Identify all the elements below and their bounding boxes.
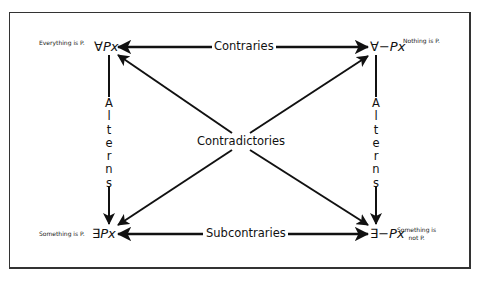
note-something-is-p: Something is P. <box>39 231 85 237</box>
contradictories-arrow-to-bottom-right <box>250 150 368 225</box>
formula-universal-affirmative: ∀Px <box>94 40 118 53</box>
contradictories-arrow-to-bottom-left <box>118 150 232 225</box>
label-subcontraries: Subcontraries <box>204 228 288 240</box>
label-alterns-left: A l t e r n s <box>104 97 114 190</box>
note-everything-is-p: Everything is P. <box>39 40 85 46</box>
label-contradictories: Contradictories <box>195 136 287 148</box>
contradictories-arrow-to-top-right <box>250 56 368 133</box>
label-alterns-right: A l t e r n s <box>371 97 381 190</box>
note-nothing-is-p: Nothing is P. <box>403 38 440 44</box>
label-contraries: Contraries <box>212 41 276 53</box>
formula-universal-negative: ∀−Px <box>370 40 405 53</box>
contradictories-arrow-to-top-left <box>118 55 232 133</box>
formula-particular-affirmative: ∃Px <box>92 227 116 240</box>
note-something-is-not-p: Something isnot P. <box>397 226 436 242</box>
